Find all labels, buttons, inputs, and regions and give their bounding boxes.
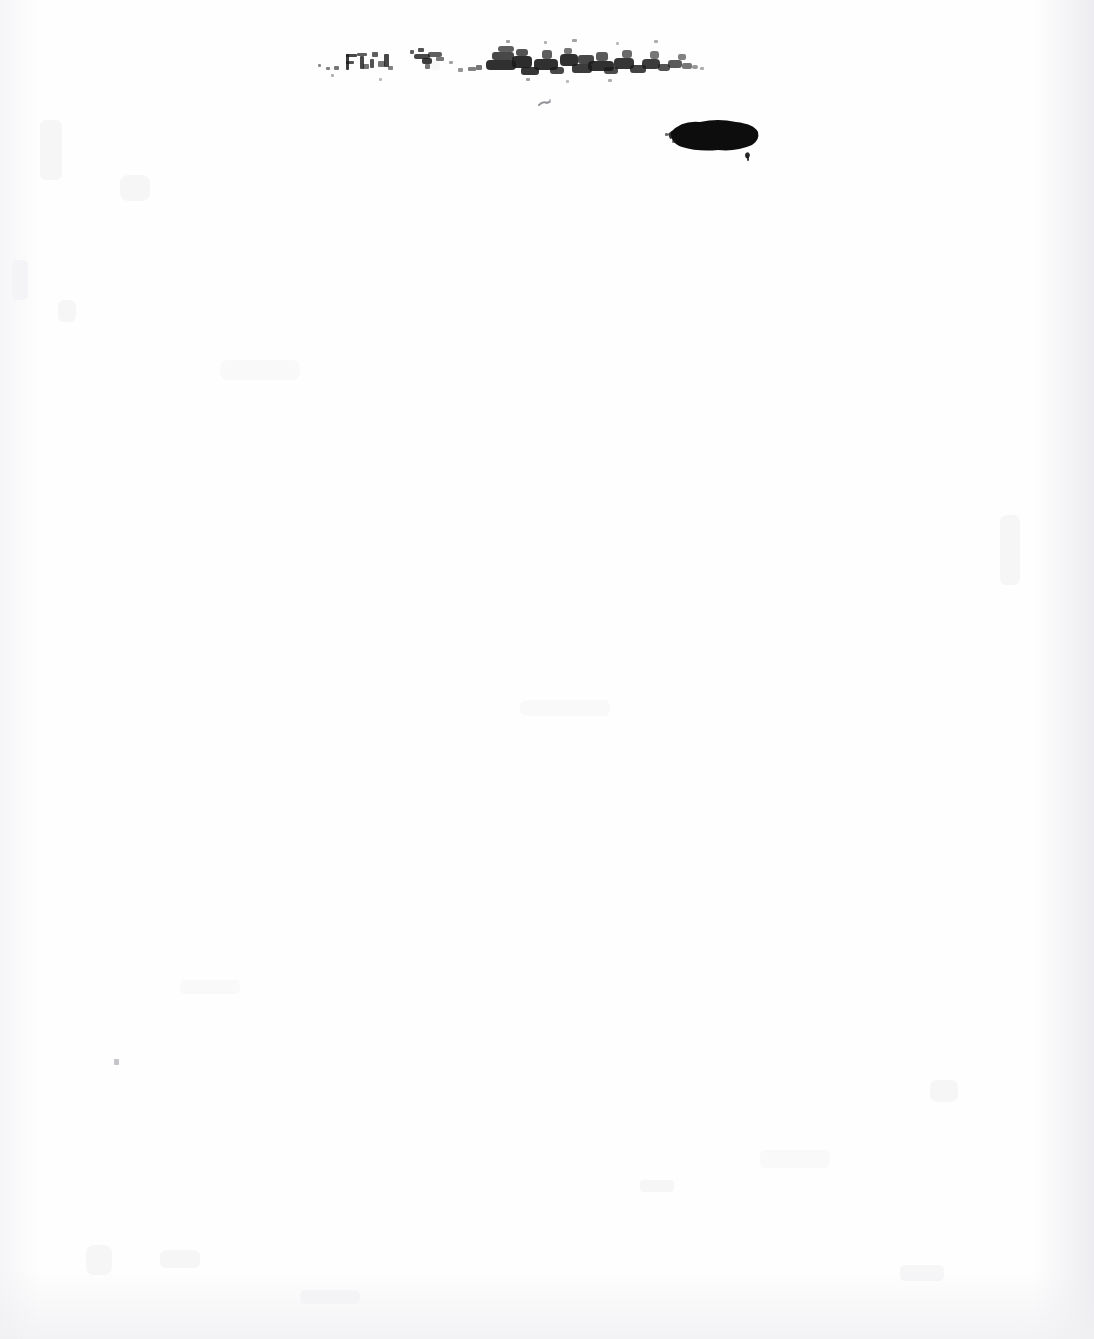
smudged-text-line — [316, 34, 708, 86]
scan-gradient-left — [0, 0, 40, 1339]
scanned-document-page — [0, 0, 1094, 1339]
dust-speck — [114, 1059, 119, 1065]
scan-gradient-right — [1034, 0, 1094, 1339]
scan-speckle-noise — [0, 0, 1094, 1339]
faint-ink-mark — [538, 98, 554, 108]
attached-slip-clip-region — [660, 290, 1094, 970]
ink-blot-redaction — [660, 112, 770, 164]
scan-gradient-bottom — [0, 1269, 1094, 1339]
